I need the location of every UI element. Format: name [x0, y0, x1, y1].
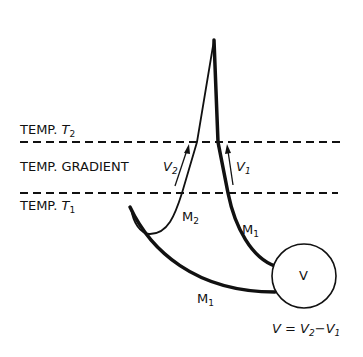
label-v2-subscript: 2	[172, 166, 178, 176]
label-temp-t1-text: TEMP.	[20, 198, 57, 213]
wire-m2	[131, 40, 214, 234]
label-m1-right: M1	[242, 223, 259, 239]
thermocouple-diagram	[0, 0, 363, 357]
equation-equals: =	[281, 321, 300, 336]
label-voltmeter: V	[299, 269, 308, 282]
label-m2: M2	[182, 210, 199, 226]
label-temp-t2: TEMP. T2	[20, 123, 75, 139]
label-m2-symbol: M	[182, 209, 193, 224]
label-t1-subscript: 1	[69, 205, 75, 215]
voltmeter-symbol: V	[299, 268, 308, 283]
equation-v1-subscript: 1	[335, 328, 341, 338]
label-v1-symbol: V	[236, 159, 245, 174]
label-v1-subscript: 1	[245, 166, 251, 176]
label-v2: V2	[163, 160, 178, 176]
label-v1: V1	[236, 160, 251, 176]
label-v2-symbol: V	[163, 159, 172, 174]
label-m1-right-symbol: M	[242, 222, 253, 237]
equation-v: V	[272, 321, 281, 336]
equation-v2: V	[300, 321, 309, 336]
equation-minus: −	[315, 321, 326, 336]
label-m1-bottom-symbol: M	[197, 291, 208, 306]
label-t2-subscript: 2	[69, 129, 75, 139]
label-m1-bottom: M1	[197, 292, 214, 308]
label-m1-bottom-subscript: 1	[208, 298, 214, 308]
label-temp-t2-text: TEMP.	[20, 122, 57, 137]
label-temp-t1: TEMP. T1	[20, 199, 75, 215]
label-temp-gradient-text: TEMP. GRADIENT	[20, 159, 129, 174]
label-m1-right-subscript: 1	[253, 229, 259, 239]
equation: V = V2−V1	[272, 322, 340, 338]
label-temp-gradient: TEMP. GRADIENT	[20, 160, 129, 173]
label-m2-subscript: 2	[193, 216, 199, 226]
equation-v1: V	[326, 321, 335, 336]
